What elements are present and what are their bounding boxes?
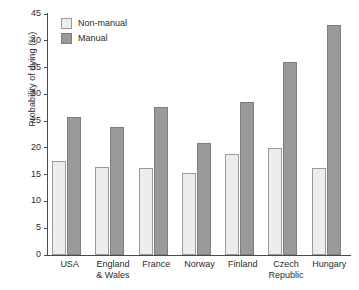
bar-nonmanual[interactable]: [139, 168, 153, 255]
x-axis-labels: USAEngland& WalesFranceNorwayFinlandCzec…: [48, 259, 351, 289]
legend-label: Non-manual: [78, 18, 127, 29]
x-tick-label: Hungary: [298, 259, 359, 270]
y-tick-label: 10: [31, 195, 41, 206]
bar-group: [264, 14, 307, 255]
bar-manual[interactable]: [240, 102, 254, 255]
y-tick-label: 5: [36, 222, 41, 233]
legend-swatch-manual: [61, 33, 72, 44]
bar-nonmanual[interactable]: [95, 167, 109, 255]
bar-group: [91, 14, 134, 255]
bars-layer: [48, 14, 351, 255]
legend-swatch-nonmanual: [61, 18, 72, 29]
x-tick-label-line: Hungary: [298, 259, 359, 270]
bar-group: [178, 14, 221, 255]
bar-manual[interactable]: [110, 127, 124, 255]
legend-label: Manual: [78, 33, 108, 44]
bar-nonmanual[interactable]: [52, 161, 66, 255]
bar-manual[interactable]: [197, 143, 211, 255]
bar-manual[interactable]: [283, 62, 297, 255]
y-axis-label: Probability of dying (%): [27, 0, 37, 159]
chart-legend: Non-manualManual: [61, 18, 181, 48]
bar-group: [308, 14, 351, 255]
bar-manual[interactable]: [327, 25, 341, 255]
bar-group: [221, 14, 264, 255]
y-tick-label: 15: [31, 169, 41, 180]
x-tick-label-line: Republic: [255, 270, 317, 281]
bar-nonmanual[interactable]: [225, 154, 239, 255]
bar-nonmanual[interactable]: [312, 168, 326, 255]
bar-manual[interactable]: [154, 107, 168, 255]
bar-group: [48, 14, 91, 255]
bar-chart-figure: 051015202530354045 Probability of dying …: [0, 0, 359, 290]
x-axis-line: [47, 255, 351, 256]
bar-manual[interactable]: [67, 117, 81, 255]
bar-nonmanual[interactable]: [182, 173, 196, 255]
bar-group: [135, 14, 178, 255]
legend-item[interactable]: Manual: [61, 33, 181, 44]
bar-nonmanual[interactable]: [268, 148, 282, 255]
legend-item[interactable]: Non-manual: [61, 18, 181, 29]
x-tick-label-line: & Wales: [82, 270, 144, 281]
